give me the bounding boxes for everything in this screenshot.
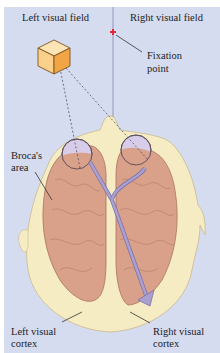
right-visual-cortex-label-line2: cortex <box>153 338 179 350</box>
right-visual-cortex-label-line1: Right visual <box>153 326 204 338</box>
fixation-leader-line <box>116 35 142 52</box>
ear-left <box>19 230 28 252</box>
fixation-point-label-line2: point <box>147 63 169 75</box>
brocas-area-label-line1: Broca's <box>11 150 42 162</box>
left-visual-cortex-label-line1: Left visual <box>11 326 56 338</box>
fixation-point-icon <box>110 29 116 35</box>
left-visual-field-label: Left visual field <box>22 12 89 24</box>
brain-visual-pathway-diagram <box>0 0 220 353</box>
left-visual-cortex-label-line2: cortex <box>11 338 37 350</box>
fixation-point-label-line1: Fixation <box>147 50 182 62</box>
right-visual-field-label: Right visual field <box>130 12 203 24</box>
brocas-area-label-line2: area <box>11 162 28 174</box>
cube-object-icon <box>38 40 70 74</box>
